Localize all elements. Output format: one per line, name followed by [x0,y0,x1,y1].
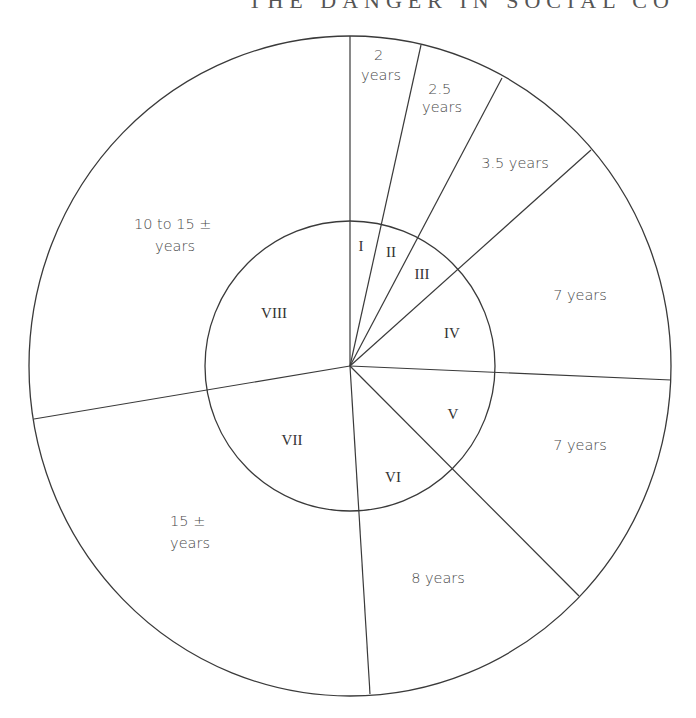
stage-label-viii: VIII [261,305,287,321]
stage-label-iii: III [415,266,430,282]
stage-label-vii: VII [282,432,303,448]
inner-stage-labels: I II III IV V VI VII VIII [261,238,460,485]
divider-line [350,366,671,380]
sector-iv-duration: 7 years [553,287,607,303]
stage-label-i: I [359,238,364,254]
sector-i-duration: 2 years [361,47,401,83]
sector-vii-duration: 15 ± years [170,513,210,551]
divider-line [350,366,370,694]
life-stages-diagram: 2 years 2.5 years 3.5 years 7 years 7 ye… [0,0,696,718]
stage-label-ii: II [386,244,396,260]
sector-vi-duration: 8 years [411,570,465,586]
sector-viii-duration: 10 to 15 ± years [134,216,216,254]
sector-v-duration: 7 years [553,437,607,453]
divider-line [350,45,421,366]
sector-dividers [34,36,671,694]
sector-iii-duration: 3.5 years [481,155,549,171]
stage-label-v: V [448,406,459,422]
divider-line [350,78,502,366]
stage-label-iv: IV [444,325,460,341]
outer-duration-labels: 2 years 2.5 years 3.5 years 7 years 7 ye… [134,47,607,586]
stage-label-vi: VI [385,469,401,485]
sector-ii-duration: 2.5 years [422,81,462,115]
divider-line [34,366,350,419]
